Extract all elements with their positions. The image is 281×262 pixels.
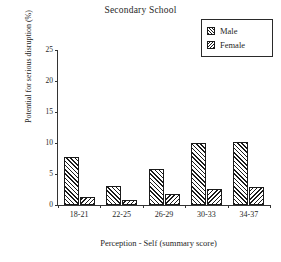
y-tick-label: 20: [46, 76, 54, 85]
x-category-label: 18-21: [58, 210, 100, 219]
bar-group: 22-25: [100, 51, 142, 205]
bar-male: [191, 143, 206, 205]
bar-group: 18-21: [58, 51, 100, 205]
x-tick-mark: [100, 205, 101, 208]
legend-item-female: Female: [207, 38, 267, 52]
y-axis-title: Potential for serious disruption (%): [24, 0, 33, 147]
x-axis-title: Perception - Self (summary score): [40, 238, 277, 248]
bar-male: [149, 169, 164, 205]
y-tick-label: 5: [49, 169, 53, 178]
bar-female: [80, 197, 95, 205]
y-tick-label: 10: [46, 138, 54, 147]
chart-title: Secondary School: [0, 5, 281, 15]
bar-female: [122, 200, 137, 205]
hatch-swatch-male-icon: [207, 27, 215, 35]
bar-group: 30-33: [185, 51, 227, 205]
legend-label-female: Female: [220, 41, 245, 50]
hatch-swatch-female-icon: [207, 41, 215, 49]
bar-male: [64, 157, 79, 205]
x-tick-mark: [185, 205, 186, 208]
bar-female: [207, 189, 222, 205]
chart-figure: Secondary School Male Female Potential f…: [0, 0, 281, 262]
y-tick-label: 25: [46, 45, 54, 54]
x-tick-mark: [228, 205, 229, 208]
x-category-label: 34-37: [228, 210, 270, 219]
x-tick-mark: [270, 205, 271, 208]
bar-male: [233, 142, 248, 205]
legend-label-male: Male: [220, 27, 237, 36]
bar-groups: 18-2122-2526-2930-3334-37: [58, 51, 270, 205]
x-tick-mark: [58, 205, 59, 208]
x-tick-mark: [143, 205, 144, 208]
x-category-label: 30-33: [185, 210, 227, 219]
x-category-label: 26-29: [143, 210, 185, 219]
plot-area: 0510152025 18-2122-2526-2930-3334-37: [57, 51, 270, 206]
legend-item-male: Male: [207, 24, 267, 38]
bar-female: [165, 194, 180, 205]
bar-group: 26-29: [143, 51, 185, 205]
bar-male: [106, 186, 121, 205]
y-tick-label: 0: [49, 200, 53, 209]
bar-female: [249, 187, 264, 205]
bar-group: 34-37: [228, 51, 270, 205]
y-tick-label: 15: [46, 107, 54, 116]
x-category-label: 22-25: [100, 210, 142, 219]
